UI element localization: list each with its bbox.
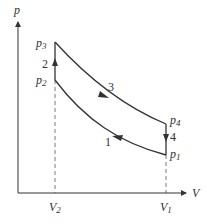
process-2-label: 2 bbox=[42, 57, 48, 71]
process-1-label: 1 bbox=[105, 135, 111, 149]
y-axis-label: p bbox=[13, 3, 20, 17]
process-3-label: 3 bbox=[108, 80, 114, 94]
label-p4: p4 bbox=[169, 113, 181, 128]
label-v2: V2 bbox=[49, 200, 61, 215]
process-2-arrow-icon bbox=[52, 58, 58, 66]
label-p1: p1 bbox=[169, 147, 181, 162]
process-1-arrow-icon bbox=[112, 135, 123, 141]
x-axis-label: V bbox=[192, 186, 201, 200]
label-v1: V1 bbox=[160, 200, 172, 215]
process-4-label: 4 bbox=[170, 130, 176, 144]
label-p3: p3 bbox=[35, 36, 47, 51]
process-4-arrow-icon bbox=[163, 134, 169, 142]
label-p2: p2 bbox=[35, 73, 47, 88]
pv-diagram: p V p3 p2 p4 p1 2 3 4 1 V2 V1 bbox=[0, 0, 207, 224]
